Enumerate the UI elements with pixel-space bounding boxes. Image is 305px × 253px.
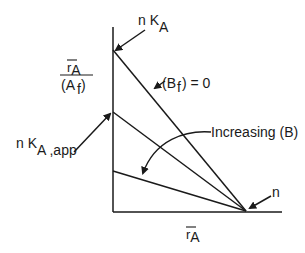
x-sub: A <box>190 229 199 245</box>
arrow-n <box>250 196 271 208</box>
x-axis-label: rA <box>186 227 200 241</box>
arrow-nka <box>116 30 145 50</box>
y-axis-label-numerator: rA <box>67 60 81 74</box>
y-den-close: ) <box>81 77 86 93</box>
bf-close: ) = 0 <box>182 75 210 91</box>
label-n: n <box>272 185 280 199</box>
arrow-nka-app <box>74 114 110 152</box>
nka-app-prefix: n K <box>16 135 37 151</box>
y-den-sub: f <box>77 81 81 97</box>
label-increasing-b: Increasing (B) <box>211 125 298 139</box>
y-num-sub: A <box>71 62 80 78</box>
bf-open: (B <box>162 75 176 91</box>
line-high-b <box>113 171 246 211</box>
label-bf-zero: (Bf) = 0 <box>162 76 210 90</box>
nka-sub: A <box>159 19 168 35</box>
label-nka-app: n KA ,app <box>16 136 77 150</box>
y-axis-label-denominator: (Af) <box>61 78 86 92</box>
bf-sub: f <box>177 79 181 95</box>
arrow-increasing-b <box>143 132 211 173</box>
nka-app-sub: A ,app <box>37 142 77 158</box>
nka-prefix: n K <box>138 12 159 28</box>
label-nka: n KA <box>138 13 168 27</box>
y-den: (A <box>61 77 75 93</box>
